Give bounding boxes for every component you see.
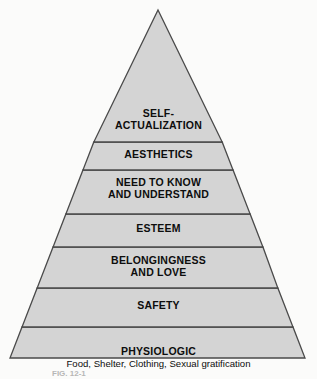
tier-shape-physiologic <box>10 327 305 358</box>
tier-shape-aesthetics <box>83 142 233 170</box>
maslow-pyramid-figure: SELF- ACTUALIZATION AESTHETICS NEED TO K… <box>0 0 317 379</box>
figure-caption: FIG. 12-1 <box>52 369 262 379</box>
tier-shape-safety <box>22 288 293 327</box>
tier-shape-esteem <box>53 214 263 247</box>
pyramid-graphic <box>0 0 317 379</box>
tier-shape-belongingness <box>37 247 278 288</box>
tier-shape-need-to-know <box>66 170 250 214</box>
tier-shape-self-actualization <box>94 10 222 142</box>
